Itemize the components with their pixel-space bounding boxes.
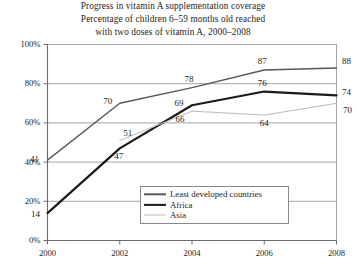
data-point-label: 51 (121, 128, 135, 138)
x-axis-tick-label: 2000 (28, 248, 68, 258)
data-point-label: 14 (29, 209, 43, 219)
legend-item-africa[interactable]: Africa (144, 200, 284, 211)
data-point-label: 76 (255, 78, 269, 88)
data-point-label: 64 (257, 118, 271, 128)
x-axis-tick-label: 2008 (317, 248, 357, 258)
y-axis-tick-label: 100% (0, 39, 41, 49)
legend-label: Asia (170, 210, 186, 221)
data-point-label: 66 (173, 114, 187, 124)
legend-swatch-africa-icon (144, 200, 166, 209)
legend-item-ldc[interactable]: Least developed countries (144, 189, 284, 200)
y-axis-tick-label: 20% (0, 196, 41, 206)
legend-label: Africa (170, 200, 192, 211)
y-axis-tick-label: 80% (0, 78, 41, 88)
data-point-label: 74 (340, 87, 354, 97)
x-axis-tick-label: 2004 (172, 248, 212, 258)
legend-swatch-ldc-icon (144, 190, 166, 199)
legend-label: Least developed countries (170, 189, 262, 200)
data-point-label: 87 (255, 56, 269, 66)
data-point-label: 69 (172, 98, 186, 108)
legend-swatch-asia-icon (144, 211, 166, 220)
data-point-label: 70 (341, 105, 355, 115)
x-axis-tick-label: 2006 (244, 248, 284, 258)
y-axis-tick-label: 60% (0, 117, 41, 127)
data-point-label: 88 (340, 56, 354, 66)
data-point-label: 41 (28, 154, 42, 164)
data-point-label: 70 (101, 96, 115, 106)
data-point-label: 47 (112, 151, 126, 161)
x-axis-tick-label: 2002 (100, 248, 140, 258)
chart-legend: Least developed countriesAfricaAsia (140, 186, 289, 224)
series-line-asia (120, 103, 337, 140)
y-axis-tick-label: 0% (0, 235, 41, 245)
legend-item-asia[interactable]: Asia (144, 210, 284, 221)
data-point-label: 78 (182, 74, 196, 84)
